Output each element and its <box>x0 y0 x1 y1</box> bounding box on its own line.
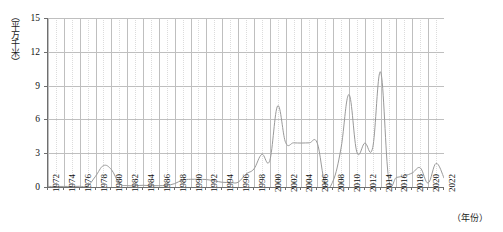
x-tick-mark <box>348 187 349 190</box>
x-axis-unit-label: （年份） <box>452 211 488 224</box>
x-tick-mark <box>221 187 222 190</box>
x-tick-label: 1978 <box>99 174 109 192</box>
x-tick-mark <box>443 187 444 190</box>
y-axis-tick-labels: 03691215 <box>0 0 44 232</box>
x-tick-mark <box>269 187 270 190</box>
x-tick-label: 1988 <box>178 174 188 192</box>
y-tick-label: 12 <box>31 47 41 57</box>
x-tick-label: 2016 <box>399 174 409 192</box>
x-tick-label: 1980 <box>114 174 124 192</box>
x-tick-mark <box>110 187 111 190</box>
x-tick-mark <box>364 187 365 190</box>
x-tick-mark <box>316 187 317 190</box>
x-tick-mark <box>79 187 80 190</box>
x-tick-label: 1974 <box>67 174 77 192</box>
x-tick-label: 2022 <box>447 174 457 192</box>
x-tick-mark <box>380 187 381 190</box>
x-tick-mark <box>174 187 175 190</box>
x-tick-mark <box>190 187 191 190</box>
y-tick-mark <box>44 18 47 19</box>
x-tick-label: 1992 <box>209 174 219 192</box>
y-tick-label: 9 <box>35 81 40 91</box>
x-tick-mark <box>332 187 333 190</box>
y-tick-mark <box>44 52 47 53</box>
x-tick-mark <box>285 187 286 190</box>
x-tick-label: 2012 <box>368 174 378 192</box>
x-tick-mark <box>253 187 254 190</box>
y-tick-mark <box>44 86 47 87</box>
x-tick-label: 1984 <box>146 174 156 192</box>
plot-inner <box>48 18 444 187</box>
chart-canvas <box>48 18 444 187</box>
x-tick-mark <box>142 187 143 190</box>
x-tick-label: 2008 <box>336 174 346 192</box>
x-tick-label: 2020 <box>431 174 441 192</box>
y-tick-mark <box>44 187 47 188</box>
x-tick-label: 2018 <box>415 174 425 192</box>
y-tick-label: 3 <box>35 148 40 158</box>
x-tick-label: 1990 <box>194 174 204 192</box>
x-tick-label: 1972 <box>51 174 61 192</box>
x-tick-label: 1976 <box>83 174 93 192</box>
x-tick-label: 2014 <box>384 174 394 192</box>
x-tick-mark <box>300 187 301 190</box>
x-tick-label: 2010 <box>352 174 362 192</box>
x-tick-label: 2000 <box>273 174 283 192</box>
y-tick-label: 15 <box>31 13 41 23</box>
x-tick-label: 1998 <box>257 174 267 192</box>
x-tick-mark <box>237 187 238 190</box>
x-tick-label: 2004 <box>304 174 314 192</box>
y-tick-mark <box>44 119 47 120</box>
x-tick-mark <box>95 187 96 190</box>
plot-area <box>47 18 444 188</box>
x-tick-label: 1996 <box>241 174 251 192</box>
x-tick-mark <box>411 187 412 190</box>
x-tick-label: 1982 <box>130 174 140 192</box>
y-tick-mark <box>44 153 47 154</box>
x-tick-label: 1986 <box>162 174 172 192</box>
x-tick-mark <box>63 187 64 190</box>
minor-gridlines <box>49 18 445 187</box>
y-tick-label: 6 <box>35 114 40 124</box>
x-tick-label: 2002 <box>289 174 299 192</box>
x-tick-mark <box>126 187 127 190</box>
data-line-series <box>48 72 444 187</box>
x-tick-mark <box>205 187 206 190</box>
x-tick-label: 1994 <box>225 174 235 192</box>
x-tick-mark <box>47 187 48 190</box>
x-tick-label: 2006 <box>320 174 330 192</box>
y-tick-label: 0 <box>35 182 40 192</box>
chart-root: （平方千米） 03691215 197219741976197819801982… <box>0 0 503 232</box>
x-tick-mark <box>395 187 396 190</box>
x-tick-mark <box>158 187 159 190</box>
x-tick-mark <box>427 187 428 190</box>
